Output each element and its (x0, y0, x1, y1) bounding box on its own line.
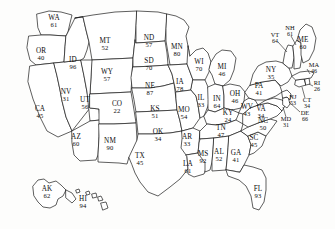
state-label-VT: VT64 (271, 32, 280, 44)
state-value-IL: 33 (198, 102, 205, 109)
state-value-OH: 46 (230, 98, 241, 105)
state-value-TX: 45 (135, 160, 145, 167)
state-label-NY: NY35 (266, 67, 277, 81)
state-value-CA: 45 (35, 113, 45, 120)
state-value-IA: 78 (176, 86, 184, 93)
state-label-WV: WV43 (241, 104, 253, 118)
us-value-map: WA61OR40CA45NV31ID96MT52WY57UT56AZ60CO22… (0, 0, 335, 229)
state-value-VT: 64 (271, 38, 280, 44)
state-value-FL: 93 (254, 193, 263, 200)
state-value-MO: 54 (178, 114, 190, 121)
state-value-IN: 64 (213, 103, 221, 110)
state-value-AR: 33 (182, 141, 192, 148)
state-value-VA: 34 (256, 113, 266, 120)
state-value-HI: 94 (79, 203, 87, 210)
state-value-AK: 62 (42, 193, 53, 200)
state-label-ND: ND57 (144, 35, 155, 49)
state-label-SC: SC45 (250, 135, 259, 149)
state-value-WV: 43 (241, 111, 253, 118)
state-label-WI: WI70 (194, 59, 203, 73)
state-value-KY: 24 (223, 117, 234, 124)
state-value-CO: 22 (112, 108, 122, 115)
state-value-NV: 31 (61, 96, 72, 103)
state-value-NC: 50 (258, 125, 268, 132)
state-value-NM: 90 (104, 145, 116, 152)
state-label-CO: CO22 (112, 101, 122, 115)
state-label-UT: UT56 (80, 97, 90, 111)
state-value-AZ: 60 (71, 141, 81, 148)
state-label-AZ: AZ60 (71, 134, 81, 148)
state-value-OR: 40 (36, 55, 46, 62)
state-label-IN: IN64 (213, 96, 221, 110)
state-label-MT: MT52 (100, 38, 111, 52)
state-label-VA: VA34 (256, 106, 266, 120)
state-label-TX: TX45 (135, 153, 145, 167)
state-label-RI: RI26 (314, 80, 321, 92)
state-label-OR: OR40 (36, 48, 46, 62)
state-label-MO: MO54 (178, 107, 190, 121)
state-value-MT: 52 (100, 45, 111, 52)
state-label-DE: DE66 (301, 110, 310, 122)
state-value-WY: 57 (101, 76, 113, 83)
state-label-TN: TN47 (216, 125, 226, 139)
state-label-MD: MD31 (281, 116, 292, 128)
state-label-NM: NM90 (104, 138, 116, 152)
state-value-LA: 61 (183, 168, 193, 175)
state-label-FL: FL93 (254, 186, 263, 200)
state-label-WA: WA61 (48, 15, 59, 29)
state-label-MN: MN80 (171, 44, 183, 58)
state-value-MS: 92 (198, 158, 209, 165)
state-value-NE: 87 (145, 90, 155, 97)
state-value-NY: 35 (266, 74, 277, 81)
state-value-GA: 41 (231, 157, 242, 164)
state-label-layer: WA61OR40CA45NV31ID96MT52WY57UT56AZ60CO22… (0, 0, 335, 229)
state-label-IA: IA78 (176, 79, 184, 93)
state-label-AR: AR33 (182, 134, 192, 148)
state-value-PA: 41 (255, 90, 264, 97)
state-value-KS: 51 (150, 113, 159, 120)
state-label-IL: IL33 (198, 95, 205, 109)
state-value-UT: 56 (80, 104, 90, 111)
state-label-GA: GA41 (231, 150, 242, 164)
state-label-AL: AL52 (214, 149, 224, 163)
state-label-KS: KS51 (150, 106, 159, 120)
state-label-HI: HI94 (79, 196, 87, 210)
state-value-MI: 46 (218, 71, 227, 78)
state-label-AK: AK62 (42, 186, 53, 200)
state-label-NE: NE87 (145, 83, 155, 97)
state-value-SD: 70 (144, 65, 153, 72)
state-value-WI: 70 (194, 66, 203, 73)
state-value-ND: 57 (144, 42, 155, 49)
state-label-KY: KY24 (223, 110, 234, 124)
state-label-MA: MA46 (309, 62, 320, 74)
state-value-OK: 34 (153, 136, 164, 143)
state-value-CT: 34 (303, 103, 311, 109)
state-value-ID: 96 (69, 64, 77, 71)
state-value-DE: 66 (301, 116, 310, 122)
state-value-SC: 45 (250, 142, 259, 149)
state-label-CT: CT34 (303, 97, 311, 109)
state-label-NH: NH61 (285, 25, 294, 37)
state-label-SD: SD70 (144, 58, 153, 72)
state-value-WA: 61 (48, 22, 59, 29)
state-label-NV: NV31 (61, 89, 72, 103)
state-label-PA: PA41 (255, 83, 264, 97)
state-label-LA: LA61 (183, 161, 193, 175)
state-value-NH: 61 (285, 31, 294, 37)
state-value-MN: 80 (171, 51, 183, 58)
state-label-ID: ID96 (69, 57, 77, 71)
state-label-NC: NC50 (258, 118, 268, 132)
state-value-RI: 26 (314, 86, 321, 92)
state-value-TN: 47 (216, 132, 226, 139)
state-value-ME: 60 (298, 44, 309, 51)
state-value-AL: 52 (214, 156, 224, 163)
state-label-OK: OK34 (153, 129, 164, 143)
state-label-NJ: NJ53 (289, 94, 296, 106)
state-value-MA: 46 (309, 68, 320, 74)
state-value-MD: 31 (281, 122, 292, 128)
state-label-CA: CA45 (35, 106, 45, 120)
state-label-MI: MI46 (218, 64, 227, 78)
state-label-OH: OH46 (230, 91, 241, 105)
state-value-NJ: 53 (289, 100, 296, 106)
state-label-MS: MS92 (198, 151, 209, 165)
